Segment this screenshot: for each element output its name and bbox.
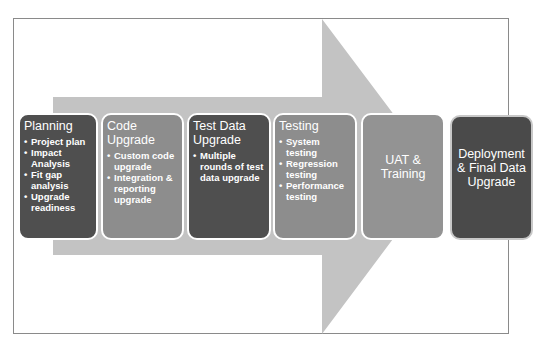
stage-bullets: Project plan Impact Analysis Fit gap ana… <box>24 136 92 213</box>
bullet-item: Multiple rounds of test data upgrade <box>193 150 265 183</box>
bullet-item: Impact Analysis <box>24 147 92 169</box>
bullet-item: Upgrade readiness <box>24 191 92 213</box>
stage-title-wrap: UAT & Training <box>367 153 439 184</box>
stage-title: Deployment & Final Data Upgrade <box>455 147 528 189</box>
bullet-item: System testing <box>279 136 351 158</box>
bullet-item: Regression testing <box>279 158 351 180</box>
stage-title: Planning <box>24 119 92 133</box>
bullet-item: Performance testing <box>279 180 351 202</box>
stage-bullets: Custom code upgrade Integration & report… <box>107 150 178 205</box>
bullet-item: Custom code upgrade <box>107 150 178 172</box>
stage-uat-training: UAT & Training <box>361 113 445 240</box>
bullet-item: Project plan <box>24 136 92 147</box>
stage-bullets: System testing Regression testing Perfor… <box>279 136 351 202</box>
stage-testing: Testing System testing Regression testin… <box>273 113 357 240</box>
stage-deployment: Deployment & Final Data Upgrade <box>450 115 533 240</box>
bullet-item: Fit gap analysis <box>24 169 92 191</box>
stage-title: UAT & Training <box>367 153 439 181</box>
stage-title-wrap: Deployment & Final Data Upgrade <box>455 147 528 192</box>
stage-title: Testing <box>279 119 351 133</box>
stage-code-upgrade: Code Upgrade Custom code upgrade Integra… <box>101 113 184 240</box>
stage-bullets: Multiple rounds of test data upgrade <box>193 150 265 183</box>
stage-title: Code Upgrade <box>107 119 178 147</box>
stage-test-data-upgrade: Test Data Upgrade Multiple rounds of tes… <box>187 113 271 240</box>
stage-title: Test Data Upgrade <box>193 119 265 147</box>
stage-planning: Planning Project plan Impact Analysis Fi… <box>18 113 98 240</box>
bullet-item: Integration & reporting upgrade <box>107 172 178 205</box>
